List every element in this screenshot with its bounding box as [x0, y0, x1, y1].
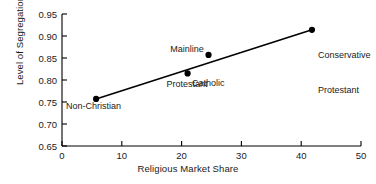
y-tick-label: 0.65 [39, 141, 58, 152]
x-tick-label: 40 [296, 150, 307, 161]
y-tick-label: 0.90 [39, 31, 58, 42]
point-label-line2: Protestant [318, 85, 371, 97]
x-tick-marks [62, 141, 361, 146]
x-tick-label: 50 [356, 150, 367, 161]
y-tick-labels: 0.95 0.90 0.85 0.80 0.75 0.70 0.65 [39, 9, 58, 152]
point-label-line1: Mainline [148, 44, 226, 56]
x-tick-label: 10 [117, 150, 128, 161]
point-label-line1: Conservative [318, 50, 371, 62]
data-point [309, 27, 315, 33]
y-tick-label: 0.95 [39, 9, 58, 20]
x-axis-title: Religious Market Share [0, 163, 376, 174]
y-tick-marks [62, 14, 67, 146]
y-tick-label: 0.70 [39, 119, 58, 130]
point-label-mainline-protestant: Mainline Protestant [148, 21, 226, 113]
scatter-chart: 0.95 0.90 0.85 0.80 0.75 0.70 0.65 0 10 … [0, 0, 376, 184]
point-label-conservative-protestant: Conservative Protestant [318, 27, 371, 119]
x-tick-label: 20 [176, 150, 187, 161]
x-tick-labels: 0 10 20 30 40 50 [59, 150, 366, 161]
y-tick-label: 0.75 [39, 97, 58, 108]
y-tick-label: 0.85 [39, 53, 58, 64]
x-tick-label: 30 [236, 150, 247, 161]
x-tick-label: 0 [59, 150, 64, 161]
y-tick-label: 0.80 [39, 75, 58, 86]
y-axis-title: Level of Segregation [14, 0, 25, 101]
point-label-non-christian: Non-Christian [66, 101, 121, 113]
point-label-line2: Protestant [148, 79, 226, 91]
